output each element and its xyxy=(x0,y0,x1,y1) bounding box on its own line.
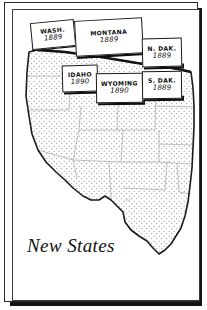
callout-card-wyoming: WYOMING 1890 xyxy=(96,73,143,104)
callout-card-south-dakota: S. DAK. 1889 xyxy=(142,71,182,99)
callout-card-idaho: IDAHO 1890 xyxy=(62,65,99,93)
callout-year-north-dakota: 1889 xyxy=(143,52,181,60)
new-states-map-figure: WASH. 1889 MONTANA 1889 N. DAK. 1889 IDA… xyxy=(0,0,207,310)
callout-card-north-dakota: N. DAK. 1889 xyxy=(142,38,183,68)
map-plate: WASH. 1889 MONTANA 1889 N. DAK. 1889 IDA… xyxy=(4,2,198,302)
callout-year-south-dakota: 1889 xyxy=(143,85,181,93)
callout-card-wash: WASH. 1889 xyxy=(30,19,76,50)
callout-year-idaho: 1890 xyxy=(63,78,97,86)
callout-card-montana: MONTANA 1889 xyxy=(74,17,144,57)
map-title: New States xyxy=(27,235,115,257)
callout-year-wyoming: 1890 xyxy=(97,88,142,96)
